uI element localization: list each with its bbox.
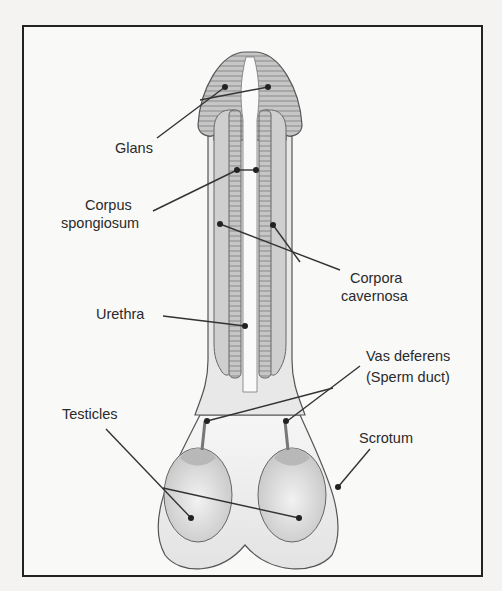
label-corpus-spongiosum-line1: Corpus xyxy=(85,196,132,214)
label-corpora-cavernosa-line2: cavernosa xyxy=(341,287,408,305)
label-urethra: Urethra xyxy=(96,305,144,323)
label-vas-deferens-line2: (Sperm duct) xyxy=(366,368,450,386)
label-corpora-cavernosa-line1: Corpora xyxy=(350,269,402,287)
label-glans: Glans xyxy=(115,139,153,157)
shaft-shape xyxy=(195,52,305,415)
label-vas-deferens-line1: Vas deferens xyxy=(366,347,450,365)
anatomy-illustration xyxy=(0,0,502,591)
label-testicles: Testicles xyxy=(62,405,118,423)
label-corpus-spongiosum-line2: spongiosum xyxy=(61,214,139,232)
label-scrotum: Scrotum xyxy=(359,429,413,447)
